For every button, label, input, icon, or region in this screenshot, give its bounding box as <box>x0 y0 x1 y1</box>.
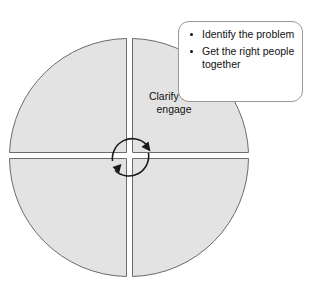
callout-bullet-item: Get the right people together <box>188 45 295 71</box>
callout-bullet-text: Identify the problem <box>202 28 294 40</box>
callout-bullet-list: Identify the problem Get the right peopl… <box>188 28 295 72</box>
callout-bullet-item: Identify the problem <box>188 28 295 41</box>
quadrant-bottom-left[interactable] <box>10 159 127 277</box>
callout-box[interactable]: Identify the problem Get the right peopl… <box>178 21 303 102</box>
diagram-canvas: Clarify and engage Identify the problem … <box>0 0 314 287</box>
callout-bullet-text: Get the right people together <box>202 45 294 70</box>
bullet-dot-icon <box>190 50 193 53</box>
quadrant-top-left[interactable] <box>10 39 127 153</box>
bullet-dot-icon <box>190 33 193 36</box>
quadrant-bottom-right[interactable] <box>133 159 249 277</box>
